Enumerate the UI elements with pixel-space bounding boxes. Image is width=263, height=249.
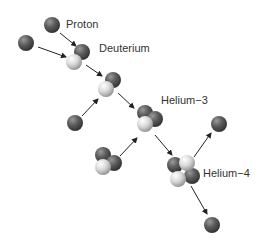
label-helium4: Helium−4: [203, 167, 250, 179]
label-proton: Proton: [66, 18, 98, 30]
arrow-helium4-to-proton-right: [194, 133, 211, 157]
neutron-sphere: [95, 159, 111, 175]
arrow-proton2-to-deuterium: [38, 47, 66, 57]
arrow-proton-to-deuterium: [60, 33, 76, 46]
helium3-nucleus: [137, 105, 163, 132]
arrow-deuterium2-to-helium3: [118, 93, 134, 108]
helium4-nucleus: [167, 155, 200, 187]
neutron-sphere: [170, 171, 186, 187]
pp-chain-diagram: Proton Deuterium Helium−3 Helium−4: [0, 0, 263, 249]
arrow-helium4-to-proton-bottom: [191, 186, 207, 214]
deuterium-nucleus: [66, 44, 90, 70]
neutron-sphere: [98, 81, 114, 97]
arrow-helium3-to-helium4: [155, 135, 172, 155]
label-deuterium: Deuterium: [99, 42, 150, 54]
arrow-helium3b-to-helium3: [120, 138, 137, 156]
label-helium3: Helium−3: [161, 94, 208, 106]
arrow-deuterium-to-deuterium2: [86, 65, 102, 76]
proton-top-sphere: [44, 17, 60, 33]
arrows: [38, 33, 211, 214]
proton-left-sphere: [18, 35, 34, 51]
arrow-proton3-to-deuterium2: [82, 99, 98, 116]
proton-lower-left-sphere: [67, 115, 83, 131]
proton-right-sphere: [211, 116, 227, 132]
neutron-sphere: [179, 155, 195, 171]
neutron-sphere: [66, 54, 82, 70]
neutron-sphere: [137, 116, 153, 132]
proton-bottom-sphere: [204, 217, 220, 233]
helium3-nucleus-2: [95, 147, 122, 175]
